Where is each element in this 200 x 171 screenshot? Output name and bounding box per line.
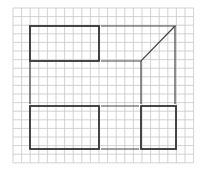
bottom-right-rectangle	[141, 106, 176, 149]
figure-shapes	[30, 26, 176, 149]
grid-diagram	[0, 0, 200, 171]
top-right-trapezoid	[101, 26, 175, 61]
grid-lines	[13, 8, 194, 163]
